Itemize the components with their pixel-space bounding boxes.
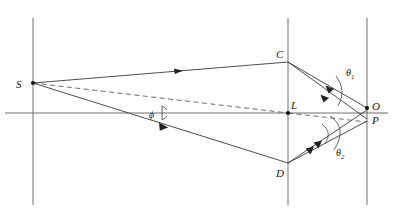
- arrowhead-s-c: [174, 69, 183, 74]
- angle-labels: ϕ θ1 θ2: [149, 67, 354, 161]
- lower-ray-path: [33, 83, 367, 163]
- point-l-dot: [286, 111, 290, 115]
- label-point-l: L: [290, 99, 297, 111]
- angle-arc-phi-curve: [162, 106, 167, 110]
- label-angle-phi: ϕ: [149, 109, 154, 120]
- angle-arc-theta2: [330, 116, 340, 150]
- label-point-o: O: [372, 100, 380, 112]
- upper-ray-path: [33, 62, 367, 119]
- optics-ray-diagram: S C L D O P ϕ θ1 θ2: [0, 0, 394, 223]
- angle-arc-theta1: [336, 76, 342, 106]
- ray-d-to-o: [288, 110, 367, 163]
- arrowhead-c-p-1: [321, 95, 330, 103]
- label-point-p: P: [371, 114, 379, 126]
- label-angle-theta1: θ1: [346, 67, 354, 81]
- label-point-c: C: [276, 48, 284, 60]
- label-point-s: S: [16, 78, 22, 90]
- ray-s-to-d: [33, 83, 288, 163]
- ray-c-to-o: [288, 62, 367, 108]
- ray-s-to-c: [33, 62, 288, 83]
- theta1-subscript: 1: [351, 73, 355, 81]
- point-s-dot: [31, 81, 35, 85]
- diagram-canvas: S C L D O P ϕ θ1 θ2: [0, 0, 394, 223]
- label-point-d: D: [275, 167, 284, 179]
- angle-arc-phi-curve-lower: [162, 116, 167, 120]
- theta2-subscript: 2: [341, 153, 345, 161]
- reference-planes: [5, 18, 388, 205]
- dashed-s-to-l: [33, 83, 288, 113]
- label-angle-theta2: θ2: [336, 147, 345, 161]
- dashed-chief-ray: [33, 83, 367, 122]
- point-o-dot: [365, 106, 369, 110]
- ray-d-to-p: [288, 121, 367, 163]
- angle-arc-theta2-inner: [322, 124, 328, 144]
